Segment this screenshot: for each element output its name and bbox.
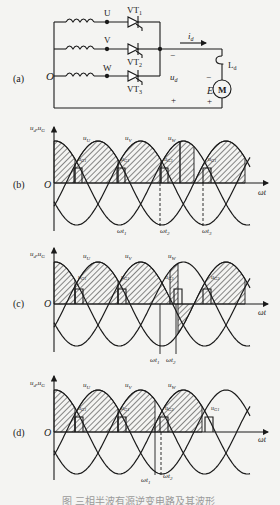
panel-b-uv-label: uV (125, 134, 133, 143)
panel-a-labels: (a) O U V W VT1 VT2 VT3 id ud Ld E M − +… (13, 5, 237, 106)
node-u-dot (105, 20, 108, 23)
polarity-right-top: − (206, 72, 211, 82)
voltage-ud-label: ud (170, 72, 179, 83)
panel-b-y-axis-label: ud,uG (30, 124, 45, 133)
panel-d-label: (d) (13, 427, 25, 439)
thyristor-vt1-icon (128, 16, 160, 31)
vt2-label: VT2 (127, 57, 142, 68)
ud-shaded-area (54, 390, 75, 432)
panel-a-label: (a) (13, 73, 24, 85)
panel-d-x-axis-label: ωt (258, 435, 267, 444)
panel-d-origin: O (44, 427, 51, 438)
panel-b-x-axis-label: ωt (258, 188, 267, 197)
panel-c-uu-label: uU (83, 252, 91, 261)
panel-d-wt1-label: ωt1 (141, 476, 150, 485)
inductor-v-icon (66, 46, 94, 49)
vt3-label: VT3 (127, 84, 142, 95)
panel-b-uu-label: uU (83, 134, 91, 143)
panel-b-ug1c-label: uG1 (208, 156, 217, 163)
node-v-label: V (104, 35, 111, 45)
thyristor-vt2-icon (128, 43, 160, 58)
panel-c-wt2-label: ωt2 (166, 356, 176, 365)
node-o-label: O (46, 70, 54, 82)
panel-c-y-axis-label: ud,uG (30, 250, 45, 259)
panel-b-label: (b) (13, 179, 25, 191)
panel-d-uu-label: uU (83, 381, 91, 390)
vt1-label: VT1 (127, 5, 142, 16)
inductor-w-icon (66, 73, 94, 76)
panel-c-ug3-label: uG3 (165, 274, 174, 281)
panel-c-origin: O (44, 298, 51, 309)
motor-m-label: M (218, 85, 227, 95)
inductor-ld-icon (216, 56, 223, 64)
phase-v-branch (54, 46, 128, 49)
ud-shaded-area (54, 262, 75, 304)
panel-c-x-axis-label: ωt (258, 308, 267, 317)
panel-d-wt2-label: ωt2 (163, 472, 173, 481)
emf-e-label: E (206, 85, 213, 96)
current-id-label: id (188, 31, 195, 42)
panel-d-uv-label: uV (125, 381, 133, 390)
phase-w-branch (54, 73, 128, 76)
figure-caption: 图 三相半波有源逆变电路及其波形 (62, 493, 262, 505)
panel-b-origin: O (44, 179, 51, 190)
phase-u-branch (54, 19, 128, 22)
panel-a-circuit (54, 16, 231, 108)
panel-d-uw-label: uW (168, 381, 177, 390)
panel-d-ug1b-label: uG1 (121, 405, 130, 412)
panel-c-label: (c) (13, 298, 24, 310)
node-v-dot (105, 47, 108, 50)
node-w-dot (105, 74, 108, 77)
thyristor-vt3-icon (128, 70, 160, 85)
panel-c-uw-label: uW (168, 252, 177, 261)
inductor-ld-label: Ld (228, 60, 237, 71)
panel-c-ug1-label: uG1 (78, 274, 87, 281)
ud-shaded-area (54, 141, 75, 183)
panel-d-ug1c-label: uG1 (211, 405, 220, 412)
panel-b-ug1-label: uG1 (78, 156, 87, 163)
panel-b-ug1b-label: uG1 (121, 156, 130, 163)
ud-shaded-area (180, 141, 194, 183)
polarity-left-top: − (170, 50, 175, 60)
panel-d-ug3-label: uG3 (165, 405, 174, 412)
polarity-left-bottom: + (171, 95, 176, 105)
panel-c-wt1-label: ωt1 (150, 356, 159, 365)
panel-b-wt2-label: ωt2 (160, 227, 170, 236)
panel-b-uw-label: uW (168, 134, 177, 143)
panel-d-waveform (54, 376, 268, 480)
panel-b-waveform (54, 127, 268, 231)
node-u-label: U (104, 8, 111, 18)
panel-b-wt1-label: ωt1 (117, 227, 126, 236)
node-w-label: W (103, 63, 112, 73)
panel-c-waveform (54, 248, 268, 354)
panel-d-y-axis-label: ud,uG (30, 379, 45, 388)
panel-c-ug3b-label: uG3 (211, 274, 220, 281)
panel-b-ug3-label: uG3 (164, 156, 173, 163)
panel-d-ug1-label: uG1 (78, 405, 87, 412)
inductor-u-icon (66, 19, 94, 22)
panel-c-ug1b-label: uG1 (121, 274, 130, 281)
panel-c-uv-label: uV (125, 252, 133, 261)
panel-b-wt3-label: ωt3 (202, 227, 212, 236)
polarity-right-bottom: + (207, 96, 212, 106)
